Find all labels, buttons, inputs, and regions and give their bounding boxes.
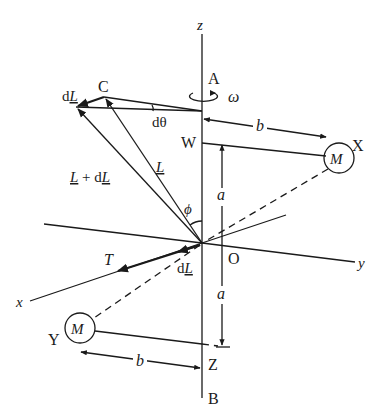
b-lower-label: b — [136, 352, 144, 369]
point-X-label: X — [352, 137, 364, 154]
L-plus-dL-label: L + dL — [69, 169, 110, 185]
b-upper-label: b — [256, 117, 264, 134]
line-axis-to-dL — [76, 107, 202, 111]
point-Z-label: Z — [208, 356, 218, 373]
arm-W-to-X — [202, 143, 326, 156]
dL-top-label: dL — [62, 88, 78, 104]
dL-vector-top — [78, 97, 104, 106]
dL-bottom-arrowhead — [178, 245, 200, 252]
mass-lower-label: M — [70, 321, 85, 337]
a-upper-label: a — [217, 186, 225, 203]
phi-arc — [190, 221, 202, 225]
x-axis-label: x — [15, 294, 23, 310]
a-lower-label: a — [217, 285, 225, 302]
point-W-label: W — [181, 134, 197, 151]
L-vector-label: L — [155, 159, 164, 175]
phi-label: ϕ — [184, 201, 192, 217]
z-axis-label: z — [196, 17, 203, 33]
omega-label: ω — [228, 88, 239, 105]
point-B-label: B — [208, 390, 219, 407]
dtheta-label: dθ — [152, 114, 167, 130]
point-Y-label: Y — [48, 331, 60, 348]
arm-Y-to-Z — [95, 331, 202, 344]
torque-label: T — [104, 251, 114, 268]
plane-line-left — [44, 224, 202, 243]
y-axis — [202, 243, 355, 262]
mass-upper-label: M — [329, 151, 344, 167]
point-A-label: A — [208, 70, 220, 87]
dL-bottom-label: dL — [177, 260, 193, 276]
origin-O-label: O — [228, 250, 240, 267]
arm-Z-dashed — [202, 344, 218, 346]
precession-diagram: z A ω dθ C dL L L + dL ϕ W M X b a y x T… — [0, 0, 378, 420]
point-C-label: C — [98, 78, 109, 95]
y-axis-label: y — [356, 255, 365, 271]
